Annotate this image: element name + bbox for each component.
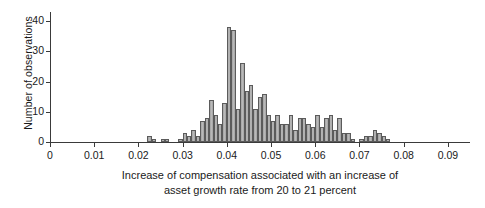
y-tick-label: 40 [32,14,44,27]
x-tick-label: 0.06 [305,149,325,162]
histogram-figure: Number of observations 010203040 00.010.… [0,0,485,208]
x-tick-label: 0.01 [84,149,104,162]
x-axis-title-line1: Increase of compensation associated with… [50,168,470,183]
x-tick-label: 0.05 [261,149,281,162]
plot-area: 010203040 00.010.020.030.040.050.060.070… [50,12,470,142]
x-tick-mark [183,143,184,147]
x-tick-label: 0.02 [128,149,148,162]
x-tick-mark [271,143,272,147]
x-tick-label: 0.08 [393,149,413,162]
histogram-bar [152,139,156,142]
x-tick-label: 0.04 [217,149,237,162]
x-tick-mark [448,143,449,147]
y-tick-label: 30 [32,44,44,57]
x-tick-mark [138,143,139,147]
y-tick-label: 10 [32,105,44,118]
histogram-bar [386,139,390,142]
histogram-bar [351,139,355,142]
y-tick-label: 0 [38,135,44,148]
x-tick-label: 0.03 [172,149,192,162]
x-tick-mark [359,143,360,147]
x-axis-line [50,142,470,143]
x-tick-mark [50,143,51,147]
x-tick-label: 0 [47,149,53,162]
histogram-bar [165,139,169,142]
x-axis-title-line2: asset growth rate from 20 to 21 percent [50,183,470,198]
x-tick-mark [227,143,228,147]
x-tick-label: 0.09 [438,149,458,162]
x-tick-mark [94,143,95,147]
y-tick-label: 20 [32,75,44,88]
x-tick-mark [315,143,316,147]
x-tick-mark [404,143,405,147]
histogram-bars [50,12,470,142]
x-axis-title: Increase of compensation associated with… [50,168,470,198]
x-tick-label: 0.07 [349,149,369,162]
